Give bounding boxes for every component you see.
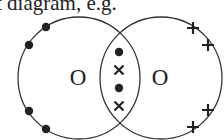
- electron-cross-icon: [202, 39, 214, 51]
- electron-cross-icon: [115, 102, 124, 111]
- electron-cross-icon: [187, 121, 199, 133]
- electron-dot-icon: [42, 125, 50, 133]
- electron-dot-icon: [115, 84, 123, 92]
- dot-cross-diagram: O O: [0, 0, 224, 140]
- electron-dot-icon: [25, 107, 33, 115]
- left-atom-label: O: [70, 65, 87, 90]
- electrons-group: [25, 22, 214, 133]
- electron-dot-icon: [42, 23, 50, 31]
- diagram-canvas: t diagram, e.g. O O: [0, 0, 224, 140]
- right-atom-label: O: [152, 65, 169, 90]
- electron-dot-icon: [25, 41, 33, 49]
- electron-cross-icon: [115, 66, 124, 75]
- electron-cross-icon: [202, 104, 214, 116]
- electron-dot-icon: [115, 48, 123, 56]
